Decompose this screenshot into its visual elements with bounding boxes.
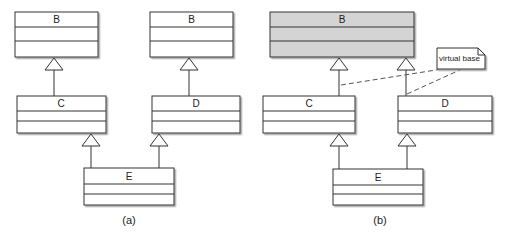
panel-a: B B C D E <box>15 12 240 226</box>
note-virtual-base: virtual base <box>437 48 485 69</box>
hollow-triangle-icon <box>397 58 415 70</box>
hollow-triangle-icon <box>150 134 168 146</box>
generalization-arrow-e-c <box>330 134 348 169</box>
class-name: D <box>192 98 199 109</box>
class-name: D <box>441 98 448 109</box>
class-box-b-left: B <box>15 12 98 57</box>
class-box-e: E <box>84 168 174 205</box>
class-box-c: C <box>263 96 355 133</box>
hollow-triangle-icon <box>330 58 348 70</box>
note-anchor-lines <box>341 67 462 94</box>
class-box-d: D <box>398 96 492 133</box>
hollow-triangle-icon <box>180 58 198 70</box>
generalization-arrow-e-d <box>150 134 168 168</box>
class-box-c: C <box>17 96 106 133</box>
hollow-triangle-icon <box>45 58 63 70</box>
generalization-arrow-d-b <box>180 58 198 96</box>
hollow-triangle-icon <box>82 134 100 146</box>
generalization-arrow-c-b <box>330 58 348 96</box>
class-name: C <box>305 98 312 109</box>
panel-caption-b: (b) <box>373 214 386 226</box>
class-box-b-virtual: B <box>270 12 414 57</box>
generalization-arrow-d-b <box>397 58 415 96</box>
class-name: B <box>188 14 195 25</box>
generalization-arrow-e-d <box>398 134 416 169</box>
panel-caption-a: (a) <box>122 214 135 226</box>
class-name: E <box>126 171 133 182</box>
class-box-d: D <box>152 96 240 133</box>
note-text: virtual base <box>439 54 480 63</box>
class-box-b-right: B <box>150 12 233 57</box>
class-name: B <box>339 14 346 25</box>
class-name: E <box>375 172 382 183</box>
uml-diagram: B B C D E <box>0 0 506 240</box>
class-name: C <box>57 98 64 109</box>
class-name: B <box>53 14 60 25</box>
generalization-arrow-c-b <box>45 58 63 96</box>
generalization-arrow-e-c <box>82 134 100 168</box>
class-box-e: E <box>333 169 423 205</box>
hollow-triangle-icon <box>398 134 416 146</box>
hollow-triangle-icon <box>330 134 348 146</box>
panel-b: B C D E <box>263 12 492 226</box>
